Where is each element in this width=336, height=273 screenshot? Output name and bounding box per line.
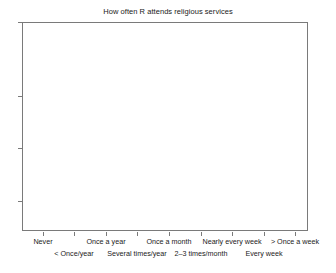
x-axis-tick-6 — [232, 232, 233, 236]
plot-area — [22, 22, 308, 231]
x-axis-label-never: Never — [33, 237, 52, 247]
x-axis-label-nearly-every-week: Nearly every week — [202, 237, 261, 247]
x-axis-tick-7 — [264, 232, 265, 236]
x-axis-label-two-three-times-month: 2–3 times/month — [174, 249, 227, 259]
x-axis-tick-4 — [169, 232, 170, 236]
x-axis-tick-2 — [106, 232, 107, 236]
x-axis-tick-5 — [201, 232, 202, 236]
x-axis-tick-3 — [137, 232, 138, 236]
chart-container: How often R attends religious services N… — [0, 0, 336, 273]
y-axis-tick-2 — [18, 148, 22, 149]
x-axis-label-more-than-once-week: > Once a week — [271, 237, 319, 247]
y-axis-tick-0 — [18, 22, 22, 23]
x-axis-tick-8 — [295, 232, 296, 236]
x-axis-label-less-than-once-year: < Once/year — [54, 249, 93, 259]
x-axis-label-row-upper: Never Once a year Once a month Nearly ev… — [0, 237, 336, 248]
chart-title: How often R attends religious services — [0, 7, 336, 16]
x-axis-label-several-times-year: Several times/year — [107, 249, 167, 259]
x-axis-tick-0 — [43, 232, 44, 236]
y-axis-tick-3 — [18, 201, 22, 202]
x-axis-label-row-lower: < Once/year Several times/year 2–3 times… — [0, 249, 336, 260]
x-axis-label-every-week: Every week — [245, 249, 282, 259]
x-axis-label-once-a-month: Once a month — [146, 237, 191, 247]
y-axis-tick-1 — [18, 96, 22, 97]
x-axis-label-once-a-year: Once a year — [86, 237, 125, 247]
x-axis-tick-1 — [74, 232, 75, 236]
